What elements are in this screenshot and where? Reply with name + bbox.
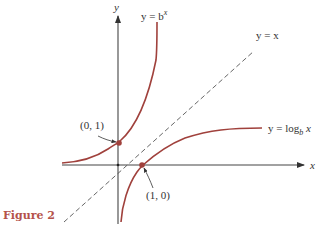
arrow-to-1-0 <box>144 168 153 188</box>
figure-caption: Figure 2 <box>3 210 55 221</box>
logarithm-curve <box>121 128 262 222</box>
exponential-label: y = bx <box>141 9 167 22</box>
x-axis-label: x <box>310 160 315 171</box>
point-1-0 <box>139 162 145 168</box>
arrow-to-0-1 <box>98 136 116 142</box>
origin-dot <box>117 164 120 167</box>
point-label-1-0: (1, 0) <box>146 190 170 201</box>
logarithm-label-suffix: x <box>303 122 311 134</box>
exponential-curve <box>62 22 157 163</box>
identity-label: y = x <box>256 30 279 41</box>
logarithm-label-text: y = log <box>268 122 299 134</box>
exponential-label-text: y = b <box>141 10 164 22</box>
point-label-0-1: (0, 1) <box>80 120 104 131</box>
y-axis-label: y <box>114 2 119 13</box>
logarithm-label: y = logb x <box>268 123 311 137</box>
point-0-1 <box>116 140 122 146</box>
exponential-superscript: x <box>164 8 168 17</box>
